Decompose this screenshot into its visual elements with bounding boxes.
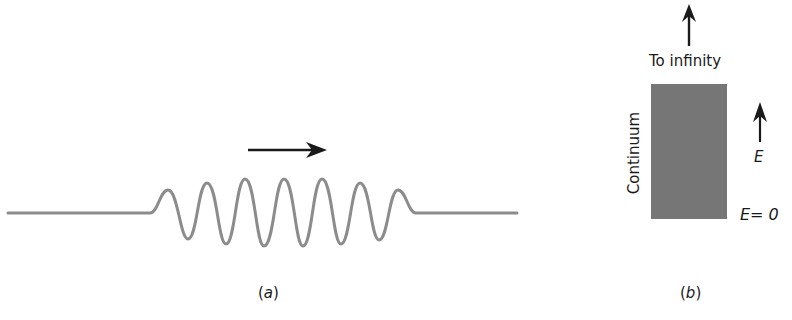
panel-b-energy-continuum: To infinity Continuum E E= 0 (b) (590, 0, 792, 320)
propagation-arrow-icon (248, 142, 327, 158)
caption-b-close: ) (695, 284, 701, 302)
to-infinity-arrow-icon (682, 4, 696, 46)
wave-packet-figure (0, 0, 560, 320)
panel-a-wave-packet: (a) (0, 0, 560, 320)
caption-a: (a) (258, 284, 279, 302)
to-infinity-label: To infinity (649, 52, 721, 70)
caption-a-close: ) (273, 284, 279, 302)
energy-zero-label: E= 0 (740, 205, 779, 224)
continuum-band (651, 84, 727, 219)
energy-arrow-icon (753, 102, 767, 142)
wave-packet-curve (8, 179, 517, 246)
caption-b: (b) (680, 284, 701, 302)
energy-axis-label: E (754, 148, 763, 166)
continuum-label: Continuum (625, 111, 643, 195)
caption-b-letter: b (686, 284, 696, 302)
caption-a-letter: a (264, 284, 273, 302)
